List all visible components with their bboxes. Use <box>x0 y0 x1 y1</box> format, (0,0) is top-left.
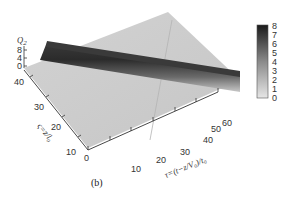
x-tick: 0 <box>84 153 89 163</box>
y-tick: 20 <box>51 122 61 132</box>
surface-plot: 8 4 0 Q2 40 30 20 10 ς=z/l₀ 0 10 20 30 4… <box>0 0 291 208</box>
colorbar-tick: 0 <box>272 93 277 103</box>
x-tick: 20 <box>156 155 166 165</box>
x-tick: 50 <box>211 124 221 134</box>
x-tick: 40 <box>203 135 213 145</box>
z-axis: 8 4 0 Q2 <box>17 35 27 71</box>
x-axis-label: τ=(t−z/V₀)/t₀ <box>163 154 208 180</box>
y-tick: 10 <box>66 147 76 157</box>
z-tick: 0 <box>17 61 22 71</box>
x-tick: 30 <box>180 147 190 157</box>
x-tick: 60 <box>222 118 232 128</box>
x-tick: 10 <box>131 164 141 174</box>
colorbar: 8 7 6 5 4 3 2 1 0 <box>257 21 277 103</box>
panel-label: (b) <box>91 177 103 189</box>
y-tick: 40 <box>14 77 24 87</box>
y-tick: 30 <box>34 102 44 112</box>
